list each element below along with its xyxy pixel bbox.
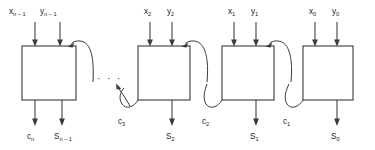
label-x-n-1: xn – 1 xyxy=(9,7,26,17)
full-adder-box-2 xyxy=(138,46,190,100)
label-x-2: x2 xyxy=(144,7,151,17)
x-input-arrow-n-1 xyxy=(32,22,38,47)
full-adder-box-0 xyxy=(303,46,353,100)
sum-output-arrow-2 xyxy=(169,100,175,126)
sum-output-arrow-1 xyxy=(253,100,259,126)
stage-1-group: x1 y1 c2 S1 xyxy=(202,7,292,142)
stage-0-group: x0 y0 c1 S0 xyxy=(283,7,353,142)
label-sum-0: S0 xyxy=(331,132,340,142)
label-sum-2: S2 xyxy=(166,132,175,142)
sum-output-arrow-0 xyxy=(334,100,340,126)
label-sum-1: S1 xyxy=(250,132,259,142)
y-input-arrow-n-1 xyxy=(57,22,63,47)
label-y-1: y1 xyxy=(251,7,258,17)
label-carry-2: c2 xyxy=(202,117,209,127)
y-input-arrow-0 xyxy=(334,22,340,47)
x-input-arrow-1 xyxy=(231,22,237,47)
y-input-arrow-1 xyxy=(253,22,259,47)
y-input-arrow-2 xyxy=(169,22,175,47)
label-sum-n-1: Sn – 1 xyxy=(54,132,72,142)
full-adder-box-n-1 xyxy=(22,46,76,100)
hidden-stage-carry-arrow xyxy=(116,84,130,106)
x-input-arrow-0 xyxy=(312,22,318,47)
label-y-n-1: yn – 1 xyxy=(40,7,57,17)
sum-output-arrow-n-1 xyxy=(59,100,65,126)
full-adder-box-1 xyxy=(222,46,274,100)
stage-n-1-group: xn – 1 yn – 1 cn Sn – 1 xyxy=(9,7,93,142)
carry-out-curve-0 xyxy=(285,84,303,107)
carry-out-curve-1 xyxy=(204,84,222,107)
stage-2-group: x2 y2 c3 S2 xyxy=(118,7,208,142)
label-carry-1: c1 xyxy=(283,117,290,127)
label-y-0: y0 xyxy=(332,7,339,17)
carry-out-arrow-n-1 xyxy=(32,100,38,126)
label-y-2: y2 xyxy=(167,7,174,17)
label-x-1: x1 xyxy=(228,7,235,17)
label-carry-3: c3 xyxy=(118,117,125,127)
label-carry-out-n: cn xyxy=(27,132,34,142)
adder-diagram-canvas: xn – 1 yn – 1 cn Sn – 1 · · · xyxy=(0,0,375,150)
label-x-0: x0 xyxy=(309,7,316,17)
x-input-arrow-2 xyxy=(147,22,153,47)
ellipsis-separator: · · · xyxy=(97,72,122,84)
ripple-carry-adder-diagram: xn – 1 yn – 1 cn Sn – 1 · · · xyxy=(0,0,375,150)
